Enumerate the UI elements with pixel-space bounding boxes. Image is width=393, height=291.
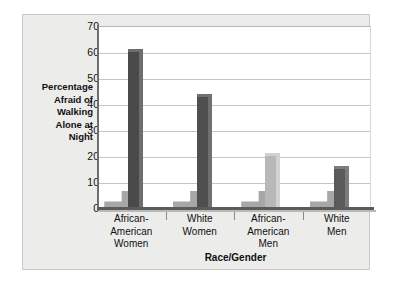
x-tick-label: White Women [166, 213, 235, 238]
bar-front-face [265, 153, 276, 208]
bar-front-face [334, 166, 345, 208]
x-tick-label: African- American Women [97, 213, 166, 251]
bar-top-face [334, 166, 349, 169]
y-tick-label: 40 [77, 99, 99, 110]
bar[interactable] [197, 94, 212, 208]
x-tick-label: White Men [303, 213, 372, 238]
y-tick-label: 50 [77, 73, 99, 84]
x-tick-label: African- American Men [234, 213, 303, 251]
bar-front-face [197, 94, 208, 208]
y-tick-label: 70 [77, 21, 99, 32]
y-axis-line [97, 25, 99, 211]
chart-panel: Percentage Afraid of Walking Alone at Ni… [22, 14, 370, 270]
y-tick-label: 20 [77, 151, 99, 162]
bar-side-face [208, 94, 212, 208]
x-axis-line [97, 207, 374, 210]
bar-side-face [276, 153, 280, 208]
bar-top-face [128, 49, 143, 52]
bar[interactable] [128, 49, 143, 208]
bar-top-face [197, 94, 212, 97]
y-tick-label: 30 [77, 125, 99, 136]
bar-side-face [139, 49, 143, 208]
y-tick-label: 60 [77, 47, 99, 58]
bar[interactable] [334, 166, 349, 208]
bar-top-face [265, 153, 280, 156]
y-tick-label: 0 [77, 203, 99, 214]
y-tick-label: 10 [77, 177, 99, 188]
y-axis-tick-labels: 010203040506070 [77, 26, 99, 208]
bar-front-face [128, 49, 139, 208]
bar[interactable] [265, 153, 280, 208]
x-axis-line-shadow [99, 210, 376, 212]
x-axis-title: Race/Gender [97, 252, 374, 263]
bar-side-face [345, 166, 349, 208]
plot-area [97, 26, 371, 208]
